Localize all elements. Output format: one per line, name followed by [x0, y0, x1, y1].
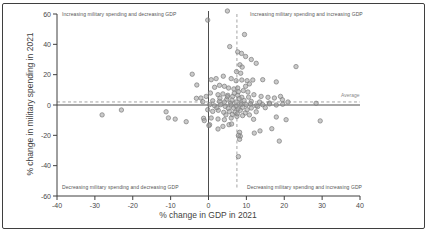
data-point — [214, 76, 218, 80]
data-point — [221, 74, 225, 78]
average-line-label: Average — [341, 92, 360, 98]
data-point — [281, 102, 285, 106]
data-point — [254, 110, 258, 114]
data-point — [190, 72, 194, 76]
data-point — [286, 100, 290, 104]
data-point — [249, 106, 253, 110]
data-point — [234, 79, 238, 83]
data-point — [207, 123, 211, 127]
data-point — [228, 44, 232, 48]
data-point — [234, 69, 238, 73]
data-point — [216, 127, 220, 131]
data-point — [204, 94, 208, 98]
data-point — [221, 124, 225, 128]
scatter-plot-canvas: -60-40-200204060-40-30-20-10010203040 — [0, 0, 427, 231]
data-point — [211, 99, 215, 103]
data-point — [242, 98, 246, 102]
data-point — [229, 122, 233, 126]
data-point — [164, 110, 168, 114]
data-point — [318, 119, 322, 123]
data-point — [225, 9, 229, 13]
data-point — [284, 118, 288, 122]
y-tick-label: 0 — [47, 102, 51, 109]
quadrant-label-bottom-right: Decreasing military spending and increas… — [247, 184, 362, 190]
data-point — [166, 116, 170, 120]
data-point — [240, 65, 244, 69]
data-point — [225, 95, 229, 99]
data-point — [274, 115, 278, 119]
data-point — [226, 86, 230, 90]
data-point — [184, 120, 188, 124]
data-point — [209, 116, 213, 120]
data-point — [251, 78, 255, 82]
data-point — [231, 106, 235, 110]
y-tick-label: 60 — [43, 11, 51, 18]
data-point — [222, 84, 226, 88]
data-point — [215, 106, 219, 110]
data-point — [246, 90, 250, 94]
data-point — [261, 78, 265, 82]
data-point — [247, 113, 251, 117]
x-axis-title: % change in GDP in 2021 — [159, 210, 257, 220]
data-point — [119, 108, 123, 112]
y-tick-label: -40 — [41, 162, 51, 169]
data-point — [241, 88, 245, 92]
x-tick-label: 30 — [318, 202, 326, 209]
data-point — [173, 117, 177, 121]
data-point — [100, 113, 104, 117]
data-point — [211, 109, 215, 113]
data-point — [280, 98, 284, 102]
data-point — [206, 108, 210, 112]
data-point — [195, 83, 199, 87]
data-point — [252, 93, 256, 97]
data-point — [242, 32, 246, 36]
data-point — [216, 117, 220, 121]
x-tick-label: 10 — [242, 202, 250, 209]
data-point — [277, 139, 281, 143]
quadrant-label-top-left: Increasing military spending and decreas… — [62, 11, 176, 17]
y-axis-title: % change in military spending in 2021 — [25, 32, 35, 175]
data-point — [230, 98, 234, 102]
x-tick-label: -20 — [128, 202, 138, 209]
data-point — [266, 95, 270, 99]
data-point — [294, 64, 298, 68]
data-point — [235, 112, 239, 116]
y-tick-label: -60 — [41, 193, 51, 200]
data-point — [202, 118, 206, 122]
x-tick-label: -30 — [90, 202, 100, 209]
x-tick-label: -10 — [166, 202, 176, 209]
data-point — [274, 103, 278, 107]
quadrant-label-top-right: Increasing military spending and increas… — [250, 11, 363, 17]
data-point — [270, 127, 274, 131]
data-point — [237, 96, 241, 100]
data-point — [243, 84, 247, 88]
data-point — [267, 102, 271, 106]
data-point — [274, 80, 278, 84]
data-point — [314, 101, 318, 105]
data-point — [236, 154, 240, 158]
data-point — [222, 118, 226, 122]
data-point — [249, 57, 253, 61]
data-point — [251, 117, 255, 121]
data-point — [258, 129, 262, 133]
data-point — [224, 113, 228, 117]
data-point — [229, 76, 233, 80]
data-point — [236, 90, 240, 94]
y-tick-label: 40 — [43, 41, 51, 48]
data-point — [237, 137, 241, 141]
data-point — [248, 102, 252, 106]
data-point — [236, 107, 240, 111]
data-point — [240, 78, 244, 82]
data-point — [226, 106, 230, 110]
data-point — [239, 71, 243, 75]
data-point — [206, 18, 210, 22]
scatter-plot-figure: -60-40-200204060-40-30-20-10010203040 In… — [0, 0, 427, 231]
data-point — [207, 103, 211, 107]
data-point — [239, 51, 243, 55]
data-point — [243, 54, 247, 58]
data-point — [263, 106, 267, 110]
data-point — [209, 78, 213, 82]
data-point — [230, 112, 234, 116]
x-tick-label: 0 — [207, 202, 211, 209]
data-point — [240, 113, 244, 117]
